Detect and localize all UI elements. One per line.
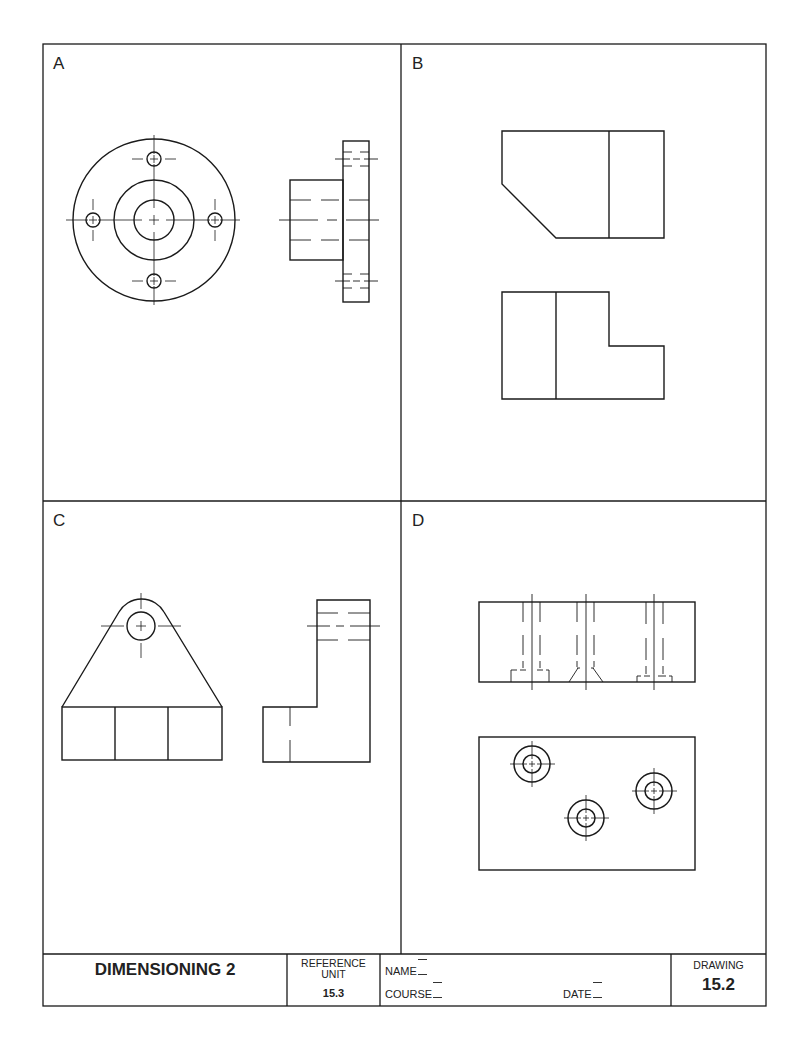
date-field[interactable]: DATE <box>563 988 602 1000</box>
drawing-title: DIMENSIONING 2 <box>43 960 287 980</box>
panel-d-drawing <box>479 594 695 870</box>
flange-side-hidden-lines <box>279 152 379 288</box>
bracket-side-hidden-lines <box>290 613 380 762</box>
panel-a-drawing <box>66 135 379 305</box>
chamfered-block-top-view <box>502 131 664 238</box>
bracket-front-view <box>62 599 222 760</box>
reference-unit-value: 15.3 <box>287 987 380 999</box>
date-label: DATE <box>563 988 592 1000</box>
course-field[interactable]: COURSE <box>385 988 442 1000</box>
name-label: NAME <box>385 965 417 977</box>
plate-top-view <box>479 737 695 870</box>
date-blank <box>592 988 602 998</box>
drawing-canvas <box>0 0 787 1061</box>
drawing-sheet: A B C D DIMENSIONING 2 REFERENCE UNIT 15… <box>0 0 787 1061</box>
flange-side-view <box>290 141 369 302</box>
panel-label-b: B <box>412 54 423 74</box>
plate-front-hidden-holes <box>511 594 672 690</box>
panel-label-a: A <box>53 54 64 74</box>
stepped-block-front-view <box>502 292 664 399</box>
bracket-centerlines <box>101 593 181 658</box>
course-blank <box>432 988 442 998</box>
panel-label-c: C <box>53 511 65 531</box>
bracket-side-view <box>263 600 370 762</box>
name-blank <box>417 965 427 975</box>
reference-label-line2: UNIT <box>287 969 380 980</box>
sheet-border <box>43 44 766 1006</box>
name-field[interactable]: NAME <box>385 965 427 977</box>
panel-label-d: D <box>412 511 424 531</box>
panel-b-drawing <box>502 131 664 399</box>
drawing-label: DRAWING <box>671 960 766 971</box>
reference-unit-label: REFERENCE UNIT <box>287 958 380 980</box>
panel-c-drawing <box>62 593 380 762</box>
flange-centerlines <box>66 135 240 305</box>
course-label: COURSE <box>385 988 432 1000</box>
drawing-number: 15.2 <box>671 975 766 995</box>
